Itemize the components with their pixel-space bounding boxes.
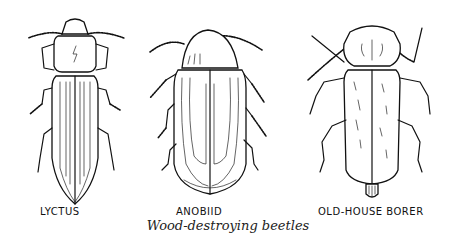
- lyctus-beetle-drawing: [20, 8, 130, 208]
- beetle-illustration-figure: LYCTUS ANOBIID: [0, 0, 456, 242]
- anobiid-label: ANOBIID: [176, 206, 222, 217]
- lyctus-label: LYCTUS: [40, 206, 80, 217]
- old-house-borer-label: OLD-HOUSE BORER: [318, 206, 424, 217]
- figure-caption: Wood-destroying beetles: [0, 218, 456, 233]
- anobiid-beetle-drawing: [138, 24, 268, 202]
- old-house-borer-beetle-drawing: [290, 10, 456, 206]
